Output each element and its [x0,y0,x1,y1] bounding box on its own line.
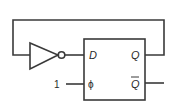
clock-value-label: 1 [54,79,60,90]
q-label: Q [131,49,140,61]
circuit-diagram: D Q ϕ Q 1 [0,0,177,111]
d-label: D [89,49,97,61]
qbar-label: Q [131,78,140,90]
inverter-gate [30,43,58,69]
clock-label: ϕ [88,79,94,90]
